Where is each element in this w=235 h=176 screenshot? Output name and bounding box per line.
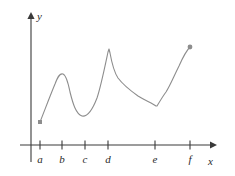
x-axis-label: x bbox=[207, 155, 213, 167]
coordinate-plane-svg: y x a b c d e f bbox=[0, 0, 235, 176]
tick-label-b: b bbox=[59, 153, 65, 165]
x-axis-arrowhead bbox=[210, 141, 217, 148]
graph-figure: y x a b c d e f bbox=[0, 0, 235, 176]
y-axis-arrowhead bbox=[27, 12, 34, 19]
y-axis-label: y bbox=[36, 10, 42, 22]
tick-label-f: f bbox=[188, 153, 193, 165]
tick-label-d: d bbox=[105, 153, 111, 165]
tick-label-e: e bbox=[153, 153, 158, 165]
function-curve bbox=[40, 47, 190, 122]
tick-label-a: a bbox=[37, 153, 43, 165]
tick-label-c: c bbox=[83, 153, 88, 165]
curve-start-point-marker bbox=[38, 120, 42, 124]
curve-end-point-marker bbox=[188, 45, 193, 50]
